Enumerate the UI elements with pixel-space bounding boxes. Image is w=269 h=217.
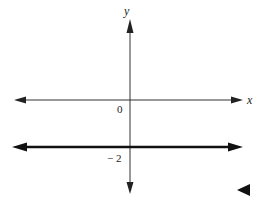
x-axis-label: x: [246, 93, 253, 107]
coordinate-plane: y x 0 − 2: [0, 0, 269, 217]
origin-label: 0: [117, 103, 123, 115]
x-axis: [14, 97, 243, 104]
y-intercept-label: − 2: [107, 152, 121, 164]
y-axis: [127, 19, 134, 194]
x-axis-right-arrow-icon: [231, 97, 243, 104]
y-axis-up-arrow-icon: [127, 19, 134, 33]
line-right-arrow-icon: [228, 143, 243, 152]
line-y-equals-minus-2: [12, 143, 243, 152]
x-axis-left-arrow-icon: [14, 97, 26, 104]
line-left-arrow-icon: [12, 143, 27, 152]
y-axis-down-arrow-icon: [127, 182, 134, 194]
y-axis-label: y: [123, 4, 130, 18]
left-triangle-marker-icon: [237, 184, 250, 196]
